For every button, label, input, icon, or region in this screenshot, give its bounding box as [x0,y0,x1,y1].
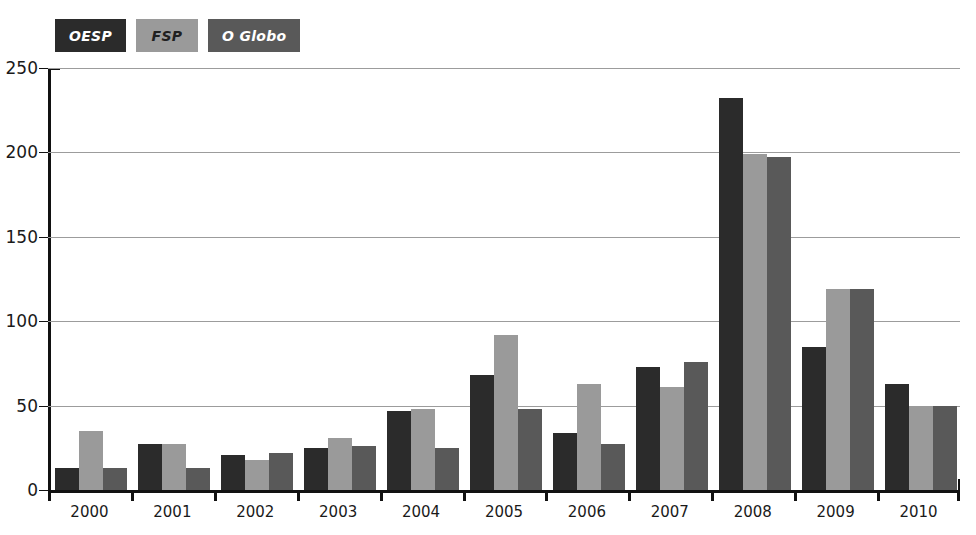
x-tick-mark-9 [794,490,797,501]
x-tick-label-2008: 2008 [734,503,772,521]
y-tick-label-0: 0 [27,482,38,499]
bar-o-globo-2003[interactable] [352,446,376,490]
bar-oesp-2004[interactable] [387,411,411,490]
x-tick-mark-0 [48,490,51,501]
bar-group-2004 [387,68,459,490]
bar-oesp-2005[interactable] [470,375,494,490]
bar-o-globo-2001[interactable] [186,468,210,490]
y-tick-mark-150 [39,237,48,238]
x-tick-label-2005: 2005 [485,503,523,521]
bar-oesp-2010[interactable] [885,384,909,490]
y-tick-label-100: 100 [6,313,38,330]
chart-legend: OESPFSPO Globo [55,19,300,52]
bar-oesp-2002[interactable] [221,455,245,490]
x-tick-label-2004: 2004 [402,503,440,521]
x-tick-label-2000: 2000 [70,503,108,521]
bar-group-2007 [636,68,708,490]
x-tick-label-2002: 2002 [236,503,274,521]
y-axis-labels: 050100150200250 [0,68,38,490]
bar-fsp-2003[interactable] [328,438,352,490]
bar-group-2000 [55,68,127,490]
bar-fsp-2002[interactable] [245,460,269,490]
plot-area [48,68,960,490]
x-tick-mark-10 [877,490,880,501]
x-tick-mark-3 [297,490,300,501]
x-tick-mark-4 [380,490,383,501]
bar-oesp-2001[interactable] [138,444,162,490]
y-tick-label-150: 150 [6,229,38,246]
x-tick-label-2006: 2006 [568,503,606,521]
y-tick-mark-50 [39,406,48,407]
bar-group-2005 [470,68,542,490]
bar-o-globo-2002[interactable] [269,453,293,490]
x-axis-labels: 2000200120022003200420052006200720082009… [48,490,960,535]
bar-fsp-2007[interactable] [660,387,684,490]
legend-item-fsp[interactable]: FSP [136,19,198,52]
y-tick-label-250: 250 [6,60,38,77]
bar-group-2001 [138,68,210,490]
bar-oesp-2007[interactable] [636,367,660,490]
bar-oesp-2009[interactable] [802,347,826,490]
y-tick-mark-250 [39,68,48,69]
bar-fsp-2010[interactable] [909,406,933,490]
legend-label: O Globo [222,28,286,44]
x-tick-label-2009: 2009 [817,503,855,521]
bar-o-globo-2009[interactable] [850,289,874,490]
bar-fsp-2009[interactable] [826,289,850,490]
bars-layer [48,68,960,490]
x-tick-label-2003: 2003 [319,503,357,521]
bar-oesp-2000[interactable] [55,468,79,490]
bar-fsp-2001[interactable] [162,444,186,490]
y-tick-label-50: 50 [16,398,38,415]
bar-group-2010 [885,68,957,490]
x-tick-mark-2 [214,490,217,501]
bar-o-globo-2006[interactable] [601,444,625,490]
bar-o-globo-2010[interactable] [933,406,957,490]
bar-o-globo-2005[interactable] [518,409,542,490]
bar-group-2008 [719,68,791,490]
bar-oesp-2008[interactable] [719,98,743,490]
y-tick-mark-0 [39,490,48,491]
x-tick-mark-8 [711,490,714,501]
bar-oesp-2003[interactable] [304,448,328,490]
bar-o-globo-2004[interactable] [435,448,459,490]
x-tick-mark-7 [628,490,631,501]
x-tick-mark-6 [545,490,548,501]
bar-group-2006 [553,68,625,490]
x-tick-label-2010: 2010 [899,503,937,521]
bar-oesp-2006[interactable] [553,433,577,490]
y-tick-label-200: 200 [6,144,38,161]
bar-o-globo-2008[interactable] [767,157,791,490]
x-tick-mark-11 [957,490,960,501]
bar-fsp-2000[interactable] [79,431,103,490]
bar-o-globo-2000[interactable] [103,468,127,490]
x-tick-label-2001: 2001 [153,503,191,521]
bar-chart: OESPFSPO Globo 050100150200250 200020012… [0,0,976,535]
bar-o-globo-2007[interactable] [684,362,708,490]
y-tick-mark-100 [39,321,48,322]
bar-fsp-2008[interactable] [743,154,767,490]
legend-item-o-globo[interactable]: O Globo [208,19,300,52]
x-tick-mark-5 [463,490,466,501]
bar-group-2003 [304,68,376,490]
bar-group-2002 [221,68,293,490]
bar-fsp-2004[interactable] [411,409,435,490]
bar-fsp-2006[interactable] [577,384,601,490]
legend-item-oesp[interactable]: OESP [55,19,126,52]
legend-label: FSP [152,28,183,44]
legend-label: OESP [69,28,112,44]
bar-fsp-2005[interactable] [494,335,518,490]
x-tick-mark-1 [131,490,134,501]
x-tick-label-2007: 2007 [651,503,689,521]
bar-group-2009 [802,68,874,490]
y-tick-mark-200 [39,152,48,153]
